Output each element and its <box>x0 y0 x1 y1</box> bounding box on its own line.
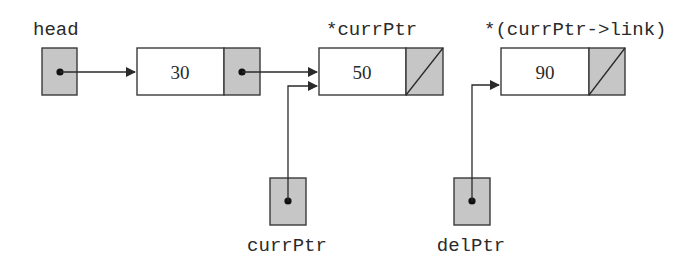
currptr-pointer <box>270 86 317 225</box>
node-30: 30 <box>137 48 317 95</box>
head-label: head <box>33 19 79 41</box>
node-90-label: *(currPtr->link) <box>484 19 666 41</box>
node-50-value: 50 <box>353 62 372 83</box>
node-90: 90 <box>501 48 625 95</box>
delptr-pointer <box>454 85 499 225</box>
delptr-label: delPtr <box>437 235 505 257</box>
linked-list-diagram: head 30 *currPtr 50 *(currPtr->link) 90 … <box>0 0 684 270</box>
node-30-value: 30 <box>171 62 190 83</box>
head-pointer <box>42 48 135 95</box>
node-90-value: 90 <box>536 62 555 83</box>
currptr-label: currPtr <box>247 235 327 257</box>
node-50: 50 <box>319 48 443 95</box>
node-50-label: *currPtr <box>326 19 417 41</box>
